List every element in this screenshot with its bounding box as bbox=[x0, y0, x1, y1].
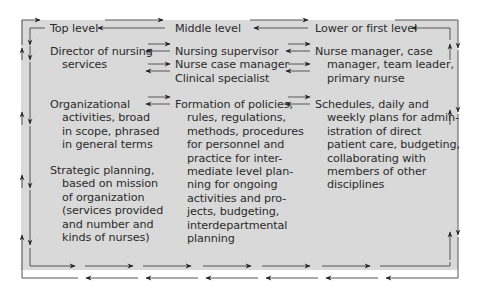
planning-top-line: Strategic planning, bbox=[50, 164, 163, 177]
role-nurse-case-manager: Nurse case manager bbox=[175, 58, 289, 71]
roles-lower-line: manager, team leader, bbox=[315, 58, 454, 71]
planning-top-line: based on mission bbox=[50, 177, 163, 190]
activities-lower-line: patient care, budgeting, bbox=[315, 138, 460, 151]
activities-top-line: activities, broad bbox=[50, 111, 159, 124]
planning-top-line: kinds of nurses) bbox=[50, 231, 163, 244]
activities-middle-line: Formation of policies, bbox=[175, 98, 304, 111]
activities-lower-line: collaborating with bbox=[315, 152, 460, 165]
level-header-top: Top level bbox=[50, 22, 98, 35]
level-header-middle: Middle level bbox=[175, 22, 241, 35]
activities-lower: Schedules, daily and weekly plans for ad… bbox=[315, 98, 460, 192]
planning-top: Strategic planning, based on mission of … bbox=[50, 164, 163, 244]
activities-middle-line: for personnel and bbox=[175, 138, 304, 151]
activities-middle-line: mediate level plan- bbox=[175, 165, 304, 178]
activities-middle-line: practice for inter- bbox=[175, 152, 304, 165]
roles-lower-line: primary nurse bbox=[315, 72, 454, 85]
activities-middle: Formation of policies, rules, regulation… bbox=[175, 98, 304, 245]
activities-middle-line: jects, budgeting, bbox=[175, 205, 304, 218]
activities-middle-line: ning for ongoing bbox=[175, 178, 304, 191]
roles-lower: Nurse manager, case manager, team leader… bbox=[315, 45, 454, 85]
planning-top-line: of organization bbox=[50, 191, 163, 204]
activities-middle-line: methods, procedures bbox=[175, 125, 304, 138]
role-clinical-specialist: Clinical specialist bbox=[175, 72, 289, 85]
activities-lower-line: disciplines bbox=[315, 178, 460, 191]
roles-top: Director of nursing services bbox=[50, 45, 153, 72]
activities-middle-line: interdepartmental bbox=[175, 219, 304, 232]
roles-top-line: services bbox=[50, 58, 153, 71]
activities-lower-line: weekly plans for admin- bbox=[315, 111, 460, 124]
activities-middle-line: planning bbox=[175, 232, 304, 245]
activities-top-line: in general terms bbox=[50, 138, 159, 151]
activities-lower-line: Schedules, daily and bbox=[315, 98, 460, 111]
role-nursing-supervisor: Nursing supervisor bbox=[175, 45, 289, 58]
planning-top-line: (services provided bbox=[50, 204, 163, 217]
activities-middle-line: rules, regulations, bbox=[175, 111, 304, 124]
activities-lower-line: members of other bbox=[315, 165, 460, 178]
planning-top-line: and number and bbox=[50, 218, 163, 231]
level-header-lower: Lower or first level bbox=[315, 22, 417, 35]
roles-top-line: Director of nursing bbox=[50, 45, 153, 58]
activities-top-line: Organizational bbox=[50, 98, 159, 111]
activities-lower-line: istration of direct bbox=[315, 125, 460, 138]
activities-middle-line: activities and pro- bbox=[175, 192, 304, 205]
roles-middle: Nursing supervisor Nurse case manager Cl… bbox=[175, 45, 289, 85]
roles-lower-line: Nurse manager, case bbox=[315, 45, 454, 58]
activities-top: Organizational activities, broad in scop… bbox=[50, 98, 159, 152]
activities-top-line: in scope, phrased bbox=[50, 125, 159, 138]
